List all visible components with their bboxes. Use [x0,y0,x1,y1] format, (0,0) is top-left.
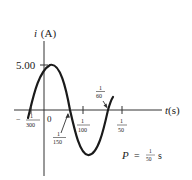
svg-text:−: − [16,115,21,124]
svg-text:=: = [134,150,140,161]
svg-text:1: 1 [149,148,152,154]
svg-text:100: 100 [78,127,87,133]
svg-text:1: 1 [99,85,102,91]
svg-text:300: 300 [26,122,35,128]
svg-text:50: 50 [118,127,124,133]
svg-text:150: 150 [53,139,62,145]
svg-text:1: 1 [81,118,84,124]
svg-text:1: 1 [57,131,60,137]
origin-label: 0 [47,114,52,124]
tick-1-60: 1 60 [96,85,108,109]
svg-text:60: 60 [96,93,102,99]
period-label: P = 1 50 s [121,148,162,162]
tick-1-150: 1 150 [53,113,70,145]
svg-text:1: 1 [120,118,123,124]
svg-text:1: 1 [30,113,33,119]
svg-text:s: s [158,150,162,161]
current-waveform-diagram: i (A) 5.00 0 t(s) − 1 300 1 150 1 100 1 … [0,0,192,180]
x-axis-label: t(s) [165,104,180,117]
svg-text:P: P [121,149,129,161]
amplitude-label: 5.00 [16,59,36,71]
svg-text:50: 50 [146,156,152,162]
y-axis-label: i (A) [34,27,56,40]
